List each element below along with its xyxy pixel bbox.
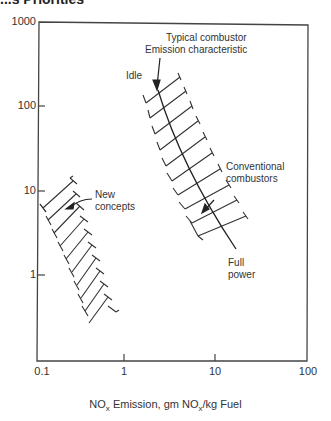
x-axis-ticks [124,354,215,361]
y-tick-100: 100 [2,99,36,111]
conventional-combustors-band [143,73,248,240]
y-tick-1: 1 [2,268,36,280]
y-tick-1000: 1000 [2,15,36,27]
conventional-combustors-label-line2: combustors [226,173,278,184]
plot-frame [37,22,308,361]
y-axis-ticks [38,106,45,275]
full-power-label-line1: Full [228,257,244,268]
idle-label: Idle [126,70,142,81]
x-tick-100: 100 [288,365,328,377]
x-tick-1: 1 [104,365,144,377]
x-tick-10: 10 [195,365,235,377]
annotation-arrows [66,58,214,213]
typical-combustor-label-line1: Typical combustor [166,32,247,43]
typical-combustor-label-line2: Emission characteristic [145,44,247,55]
full-power-label-line2: power [228,269,255,280]
x-axis-label: NOx Emission, gm NOx/kg Fuel [0,398,331,413]
new-concepts-label-line1: New [95,189,115,200]
chart-plot [0,0,331,421]
conventional-combustors-label-line1: Conventional [226,161,284,172]
y-tick-10: 10 [2,184,36,196]
x-tick-0-1: 0.1 [22,365,62,377]
new-concepts-label-line2: concepts [95,201,135,212]
